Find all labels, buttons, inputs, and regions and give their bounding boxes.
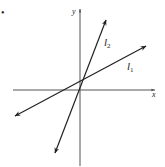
line-l2-label: l2 <box>104 36 111 50</box>
line-l1-label: l1 <box>127 60 134 74</box>
coordinate-diagram: • x y l1 l2 <box>0 0 165 167</box>
y-axis-label: y <box>71 7 76 16</box>
bullet-marker: • <box>1 7 5 18</box>
x-axis-label: x <box>151 90 156 99</box>
